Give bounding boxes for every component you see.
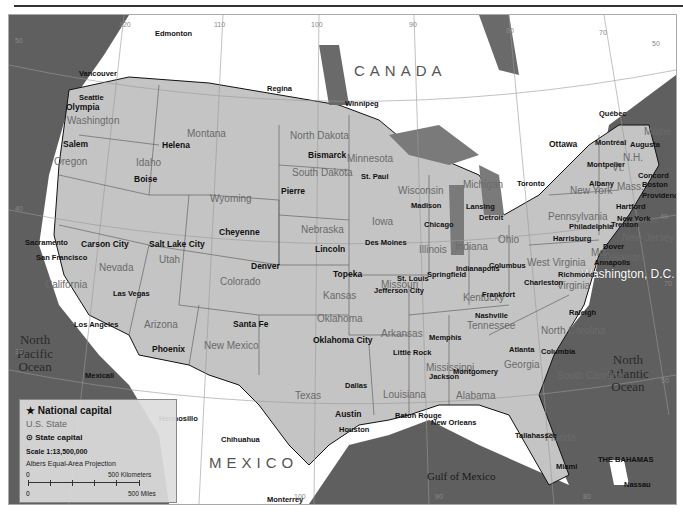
city-label[interactable]: Winnipeg	[345, 100, 379, 108]
capital-label[interactable]: Nashville	[475, 312, 508, 320]
capital-label[interactable]: Little Rock	[393, 349, 431, 357]
state-label: Georgia	[504, 360, 540, 370]
city-label[interactable]: Houston	[339, 426, 369, 434]
capital-label[interactable]: Tallahassee	[515, 432, 557, 440]
city-label[interactable]: Regina	[267, 85, 292, 93]
latitude-label: 40	[15, 205, 23, 212]
longitude-label: 120	[119, 21, 131, 28]
capital-label[interactable]: Dover	[603, 243, 624, 251]
capital-label[interactable]: Annapolis	[594, 259, 630, 267]
country-label-mexico: MEXICO	[209, 455, 298, 470]
legend-state-capital: ⊙ State capital	[26, 434, 82, 442]
state-label: South Dakota	[292, 168, 353, 178]
capital-label[interactable]: Pierre	[281, 187, 305, 196]
city-label[interactable]: San Francisco	[36, 254, 87, 262]
city-label[interactable]: Chicago	[424, 221, 454, 229]
city-label[interactable]: Québec	[599, 110, 627, 118]
us-map[interactable]: CANADA MEXICO THE BAHAMAS North Pacific …	[8, 14, 677, 505]
capital-label[interactable]: Topeka	[333, 270, 362, 279]
city-label[interactable]: Memphis	[429, 334, 462, 342]
state-label: Maine	[644, 127, 671, 137]
state-label: N.H.	[623, 153, 643, 163]
capital-label[interactable]: Denver	[251, 262, 280, 271]
city-label[interactable]: Nassau	[624, 481, 651, 489]
city-label[interactable]: Chihuahua	[221, 436, 260, 444]
city-label[interactable]: Philadelphia	[569, 223, 613, 231]
scale-mi-label: 500 Miles	[128, 491, 156, 498]
city-label[interactable]: New York	[617, 215, 651, 223]
state-label: Idaho	[136, 158, 161, 168]
city-label[interactable]: Vancouver	[79, 70, 117, 78]
capital-label[interactable]: Bismarck	[308, 151, 346, 160]
capital-label[interactable]: St. Paul	[361, 173, 389, 181]
city-label[interactable]: Monterrey	[267, 496, 303, 504]
capital-label[interactable]: Jefferson City	[374, 287, 424, 295]
city-label[interactable]: Ottawa	[549, 140, 577, 149]
scale-bar	[28, 482, 140, 489]
city-label[interactable]: Dallas	[345, 382, 367, 390]
capital-label[interactable]: Boston	[642, 181, 668, 189]
capital-label[interactable]: Cheyenne	[219, 228, 260, 237]
capital-label[interactable]: Raleigh	[569, 309, 596, 317]
city-label[interactable]: Montréal	[595, 139, 626, 147]
city-label[interactable]: Los Angeles	[74, 321, 118, 329]
legend-projection: Albers Equal-Area Projection	[26, 460, 116, 467]
city-label[interactable]: Detroit	[479, 214, 503, 222]
state-label: Montana	[187, 129, 226, 139]
state-label: Washington	[67, 116, 119, 126]
capital-label[interactable]: Augusta	[630, 141, 660, 149]
state-label: Wyoming	[210, 194, 252, 204]
capital-label[interactable]: Columbia	[541, 348, 575, 356]
capital-label[interactable]: Helena	[162, 141, 190, 150]
capital-label[interactable]: Hartford	[616, 203, 646, 211]
capital-label[interactable]: Atlanta	[509, 346, 534, 354]
state-label: Arizona	[144, 320, 178, 330]
state-label: Oklahoma	[317, 314, 363, 324]
capital-label[interactable]: Richmond	[558, 271, 595, 279]
capital-label[interactable]: Columbus	[489, 262, 526, 270]
longitude-label: 90	[435, 493, 443, 500]
legend-scale: Scale 1:13,500,000	[26, 448, 88, 455]
city-label[interactable]: Seattle	[79, 94, 104, 102]
capital-label[interactable]: Des Moines	[365, 239, 407, 247]
city-label[interactable]: St. Louis	[397, 275, 429, 283]
state-label: New Jersey	[622, 233, 674, 243]
capital-label[interactable]: Albany	[589, 180, 614, 188]
longitude-label: 80	[583, 493, 591, 500]
capital-label[interactable]: Lincoln	[315, 245, 345, 254]
city-label[interactable]: Mexicali	[85, 372, 114, 380]
capital-label[interactable]: Carson City	[81, 240, 129, 249]
capital-label[interactable]: Providence	[642, 192, 677, 200]
city-label[interactable]: New Orleans	[431, 419, 476, 427]
capital-label[interactable]: Salt Lake City	[149, 240, 205, 249]
capital-label[interactable]: Salem	[63, 140, 88, 149]
capital-label[interactable]: Oklahoma City	[313, 336, 373, 345]
ocean-label-gulf: Gulf of Mexico	[427, 471, 495, 482]
latitude-label: 50	[661, 377, 669, 384]
state-label: North Carolina	[541, 326, 605, 336]
capital-label[interactable]: Madison	[411, 202, 441, 210]
capital-label[interactable]: Montpelier	[587, 161, 625, 169]
capital-label[interactable]: Olympia	[66, 103, 100, 112]
capital-label[interactable]: Austin	[335, 410, 361, 419]
capital-label[interactable]: Concord	[638, 172, 669, 180]
city-label[interactable]: Toronto	[517, 180, 545, 188]
longitude-label: 70	[599, 29, 607, 36]
capital-label[interactable]: Charleston	[524, 279, 563, 287]
capital-label[interactable]: Phoenix	[152, 345, 185, 354]
longitude-label: 80	[506, 27, 514, 34]
latitude-label: 50	[652, 40, 660, 47]
capital-label[interactable]: Harrisburg	[553, 235, 591, 243]
capital-label[interactable]: Lansing	[466, 203, 495, 211]
capital-label[interactable]: Frankfort	[482, 291, 515, 299]
capital-label[interactable]: Santa Fe	[233, 320, 268, 329]
capital-label[interactable]: Sacramento	[25, 239, 68, 247]
national-capital-label[interactable]: Washington, D.C.	[581, 268, 675, 280]
city-label[interactable]: Edmonton	[155, 30, 192, 38]
state-label: Kansas	[323, 291, 356, 301]
capital-label[interactable]: Boise	[134, 175, 157, 184]
city-label[interactable]: Las Vegas	[113, 290, 150, 298]
city-label[interactable]: Miami	[556, 463, 577, 471]
state-label: Wisconsin	[398, 186, 444, 196]
capital-label[interactable]: Montgomery	[453, 368, 498, 376]
